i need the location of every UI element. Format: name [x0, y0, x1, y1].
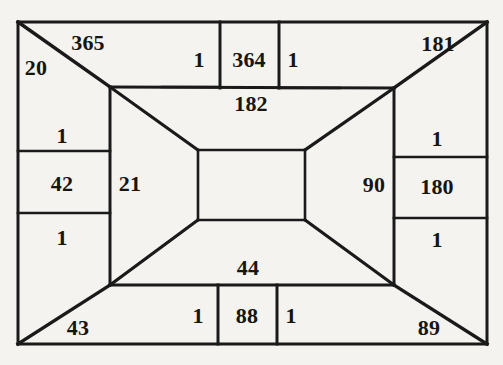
- diagonal-bottom-right: [394, 285, 487, 344]
- label-21: 21: [119, 173, 141, 195]
- label-right-lower-one: 1: [431, 229, 442, 251]
- frame-top: [110, 87, 394, 88]
- label-181: 181: [421, 33, 455, 55]
- label-bottom-right-one: 1: [285, 305, 296, 327]
- label-88: 88: [236, 305, 258, 327]
- label-top-right-one: 1: [287, 49, 298, 71]
- perspective-bottom-left: [110, 220, 198, 285]
- label-bottom-left-one: 1: [192, 305, 203, 327]
- label-89: 89: [418, 317, 440, 339]
- label-365: 365: [71, 32, 105, 54]
- perspective-top-right: [305, 88, 394, 150]
- label-top-left-one: 1: [193, 49, 204, 71]
- label-364: 364: [232, 49, 266, 71]
- label-43: 43: [67, 317, 89, 339]
- label-20: 20: [25, 57, 47, 79]
- label-left-upper-one: 1: [56, 125, 67, 147]
- diagonal-bottom-left: [18, 285, 110, 344]
- label-44: 44: [237, 257, 259, 279]
- label-90: 90: [363, 174, 385, 196]
- diagram-canvas: 365201364118118214212190118014418814389: [0, 0, 503, 365]
- perspective-bottom-right: [305, 220, 394, 285]
- label-180: 180: [420, 176, 454, 198]
- label-left-lower-one: 1: [56, 227, 67, 249]
- perspective-top-left: [110, 87, 198, 150]
- label-right-upper-one: 1: [431, 128, 442, 150]
- label-42: 42: [51, 173, 73, 195]
- label-182: 182: [234, 93, 268, 115]
